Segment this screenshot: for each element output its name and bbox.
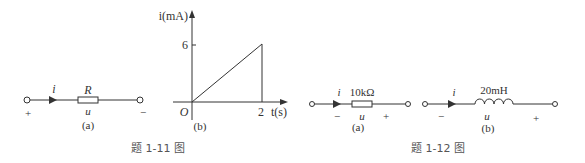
origin-label: O — [180, 105, 189, 119]
terminal-left — [24, 97, 30, 103]
element-label: 20mH — [480, 84, 508, 96]
current-waveform — [192, 44, 262, 102]
resistor-symbol — [78, 97, 98, 103]
polarity-right: + — [533, 112, 539, 124]
terminal-left — [310, 102, 315, 107]
y-axis-label: i(mA) — [159, 9, 188, 23]
current-label: i — [337, 86, 340, 98]
fig1-12-circuit-a: i 10kΩ u − + (a) — [310, 86, 411, 134]
element-label: 10kΩ — [350, 86, 375, 98]
figure-caption: 题 1-11 图 — [131, 142, 185, 155]
fig1-11-circuit-a: i R u + − (a) — [24, 82, 146, 132]
y-tick-label: 6 — [182, 38, 188, 52]
terminal-left — [423, 102, 428, 107]
element-label: R — [83, 83, 92, 97]
resistor-symbol — [352, 101, 372, 107]
fig1-11-graph-b: i(mA) 6 O 2 t(s) (b) — [159, 9, 287, 133]
current-arrow-icon — [49, 96, 57, 104]
subfigure-label: (b) — [194, 120, 207, 133]
polarity-left: − — [438, 110, 444, 122]
voltage-label: u — [484, 110, 490, 122]
x-axis-label: t(s) — [271, 105, 287, 119]
voltage-label: u — [85, 105, 91, 117]
x-tick-label: 2 — [258, 105, 264, 119]
inductor-symbol — [475, 99, 513, 104]
fig1-12-circuit-b: i 20mH u − + (b) — [423, 84, 558, 135]
subfigure-label: (b) — [482, 122, 495, 135]
subfigure-label: (a) — [82, 119, 95, 132]
terminal-right — [553, 102, 558, 107]
current-arrow-icon — [448, 100, 456, 108]
subfigure-label: (a) — [352, 121, 365, 134]
terminal-right — [406, 102, 411, 107]
current-label: i — [52, 82, 55, 96]
current-arrow-icon — [333, 100, 341, 108]
figure-caption: 题 1-12 图 — [411, 142, 465, 155]
polarity-left: + — [25, 107, 31, 119]
terminal-right — [137, 97, 143, 103]
current-label: i — [452, 86, 455, 98]
polarity-left: − — [334, 110, 340, 122]
polarity-right: + — [383, 110, 389, 122]
polarity-right: − — [140, 106, 146, 118]
